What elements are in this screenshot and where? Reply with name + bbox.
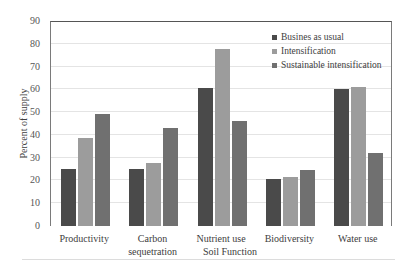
- y-tick-label: 0: [10, 221, 40, 231]
- bar-intensification: [351, 87, 366, 226]
- y-tick-label: 50: [10, 107, 40, 117]
- bar-busines-as-usual: [61, 169, 76, 226]
- bar-sustainable-intensification: [232, 121, 247, 226]
- bottom-divider: [22, 259, 395, 260]
- bar-sustainable-intensification: [300, 170, 315, 226]
- y-tick-label: 90: [10, 16, 40, 26]
- bar-busines-as-usual: [129, 169, 144, 226]
- x-tick-label: Water use: [318, 232, 398, 245]
- bar-busines-as-usual: [334, 89, 349, 226]
- bar-sustainable-intensification: [163, 128, 178, 226]
- legend: Busines as usualIntensificationSustainab…: [272, 30, 382, 72]
- legend-item: Sustainable intensification: [272, 58, 382, 72]
- legend-label: Sustainable intensification: [281, 58, 382, 72]
- bar-intensification: [146, 163, 161, 226]
- y-tick-label: 10: [10, 198, 40, 208]
- bar-intensification: [78, 138, 93, 226]
- legend-item: Busines as usual: [272, 30, 382, 44]
- bar-sustainable-intensification: [368, 153, 383, 226]
- y-tick-label: 70: [10, 62, 40, 72]
- y-tick-label: 60: [10, 84, 40, 94]
- legend-swatch-icon: [272, 49, 277, 54]
- y-tick-label: 20: [10, 175, 40, 185]
- bar-busines-as-usual: [198, 88, 213, 226]
- y-tick-label: 80: [10, 39, 40, 49]
- bar-intensification: [283, 177, 298, 226]
- legend-swatch-icon: [272, 35, 277, 40]
- y-tick-label: 40: [10, 130, 40, 140]
- bar-sustainable-intensification: [95, 114, 110, 226]
- legend-item: Intensification: [272, 44, 382, 58]
- x-axis-title: Soil Function: [175, 246, 285, 257]
- legend-swatch-icon: [272, 63, 277, 68]
- legend-label: Busines as usual: [281, 30, 344, 44]
- bar-busines-as-usual: [266, 179, 281, 226]
- bar-intensification: [215, 49, 230, 226]
- y-tick-label: 30: [10, 153, 40, 163]
- legend-label: Intensification: [281, 44, 336, 58]
